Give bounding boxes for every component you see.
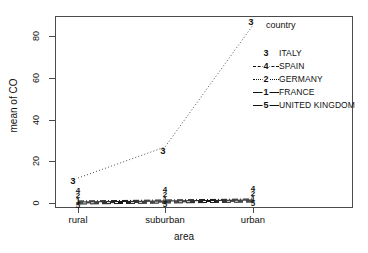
- y-tick-mark-60: [49, 78, 55, 79]
- y-tick-label-20: 20: [31, 151, 41, 171]
- point-label-italy-urban: 3: [248, 17, 253, 27]
- x-tick-label-urban: urban: [241, 214, 265, 225]
- chart-root: 80 60 40 20 0 mean of CO rural suburban …: [0, 0, 368, 253]
- legend-key-char-germany: 2: [262, 74, 269, 83]
- marker-cluster-rural: 4215: [76, 189, 80, 209]
- legend-key-united-kingdom: 5: [253, 98, 279, 111]
- marker-cluster-urban: 4215: [251, 187, 255, 207]
- y-axis-title: mean of CO: [8, 66, 19, 146]
- legend-key-germany: 2: [253, 72, 279, 85]
- legend-item-italy[interactable]: 3 ITALY: [253, 46, 355, 59]
- legend-key-char-italy: 3: [262, 48, 269, 57]
- y-tick-label-0: 0: [31, 193, 41, 213]
- legend-item-united-kingdom[interactable]: 5 UNITED KINGDOM: [253, 98, 355, 111]
- legend-label-france: FRANCE: [279, 87, 315, 97]
- y-tick-label-80: 80: [31, 26, 41, 46]
- legend-label-spain: SPAIN: [279, 61, 304, 71]
- legend-label-united-kingdom: UNITED KINGDOM: [279, 100, 355, 110]
- legend-item-france[interactable]: 1 FRANCE: [253, 85, 355, 98]
- point-label-italy-rural: 3: [70, 176, 75, 186]
- x-tick-mark-urban: [253, 208, 254, 213]
- y-tick-label-60: 60: [31, 68, 41, 88]
- legend-key-france: 1: [253, 85, 279, 98]
- y-tick-mark-0: [49, 203, 55, 204]
- legend-key-spain: 4: [253, 59, 279, 72]
- x-tick-label-rural: rural: [68, 214, 87, 225]
- y-tick-mark-80: [49, 36, 55, 37]
- legend-item-germany[interactable]: 2 GERMANY: [253, 72, 355, 85]
- legend-key-italy: 3: [253, 46, 279, 59]
- x-axis-title: area: [0, 231, 368, 242]
- x-tick-label-suburban: suburban: [145, 214, 185, 225]
- y-tick-label-40: 40: [31, 110, 41, 130]
- legend-title: country: [266, 20, 296, 30]
- legend-rows: 3 ITALY 4 SPAIN 2 GERMANY: [253, 46, 355, 111]
- legend-key-char-united-kingdom: 5: [262, 100, 269, 109]
- legend-label-germany: GERMANY: [279, 74, 323, 84]
- legend-label-italy: ITALY: [279, 48, 302, 58]
- marker-cluster-suburban: 4215: [163, 188, 167, 208]
- y-tick-mark-20: [49, 161, 55, 162]
- plot-area: [55, 16, 353, 208]
- y-tick-mark-40: [49, 120, 55, 121]
- legend-key-char-france: 1: [262, 87, 269, 96]
- legend-item-spain[interactable]: 4 SPAIN: [253, 59, 355, 72]
- legend-key-char-spain: 4: [262, 61, 269, 70]
- point-label-italy-suburban: 3: [160, 146, 165, 156]
